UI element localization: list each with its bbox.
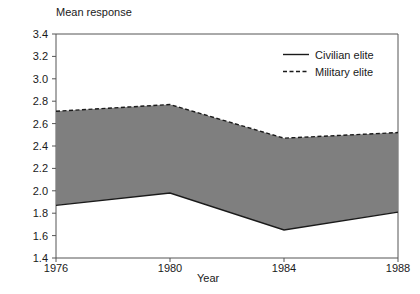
plot-area [0, 0, 420, 294]
legend-solid-line-icon [283, 50, 309, 59]
y-axis-tick-label: 1.6 [18, 230, 48, 242]
y-axis-tick-label: 2.2 [18, 162, 48, 174]
x-axis-tick-label: 1976 [44, 262, 68, 274]
x-axis-tick-label: 1984 [272, 262, 296, 274]
chart-legend: Civilian eliteMilitary elite [283, 48, 374, 78]
y-axis-tick-label: 2.0 [18, 185, 48, 197]
legend-label: Civilian elite [315, 49, 374, 61]
legend-dashed-line-icon [283, 67, 309, 76]
x-axis-tick-label: 1988 [386, 262, 410, 274]
legend-item: Military elite [283, 65, 374, 78]
y-axis-tick-label: 2.6 [18, 118, 48, 130]
y-axis-tick-label: 3.0 [18, 73, 48, 85]
y-axis-tick-label: 3.4 [18, 28, 48, 40]
y-axis-tick-label: 1.8 [18, 207, 48, 219]
legend-item: Civilian elite [283, 48, 374, 61]
y-axis-tick-label: 3.2 [18, 50, 48, 62]
y-axis-tick-label: 2.4 [18, 140, 48, 152]
y-axis-tick-label: 2.8 [18, 95, 48, 107]
x-axis-tick-label: 1980 [158, 262, 182, 274]
chart-container: Mean response Year 3.43.23.02.82.62.42.2… [0, 0, 420, 294]
legend-label: Military elite [315, 66, 373, 78]
